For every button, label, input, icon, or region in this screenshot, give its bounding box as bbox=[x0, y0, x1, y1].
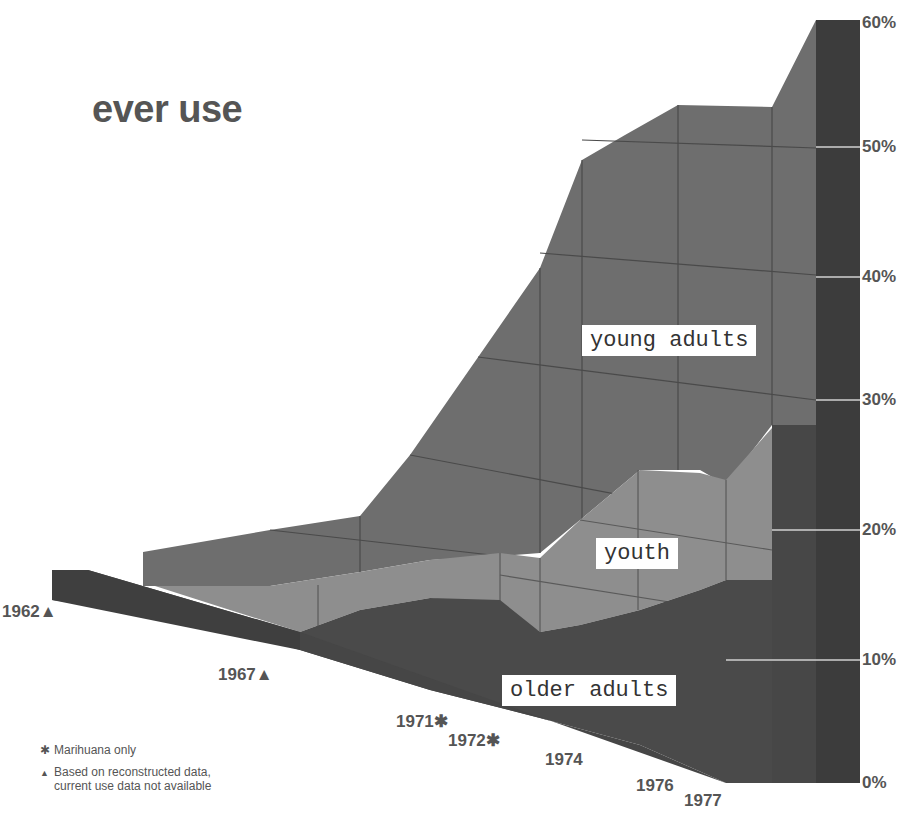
series-label-older-adults: older adults bbox=[502, 675, 676, 706]
series-label-young-adults: young adults bbox=[582, 325, 756, 356]
x-tick-1962: 1962▲ bbox=[2, 602, 57, 622]
chart-title: ever use bbox=[92, 88, 242, 131]
footnote-marihuana: ✱Marihuana only bbox=[40, 744, 136, 757]
footnote-reconstructed: ▲Based on reconstructed data, current us… bbox=[40, 766, 211, 793]
x-tick-1976: 1976 bbox=[636, 776, 674, 796]
x-tick-1967: 1967▲ bbox=[218, 665, 273, 685]
back-wall-col-1976 bbox=[772, 425, 816, 783]
y-tick-60: 60% bbox=[862, 13, 896, 33]
x-tick-1972: 1972✱ bbox=[448, 730, 500, 751]
asterisk-icon: ✱ bbox=[40, 744, 54, 757]
y-tick-50: 50% bbox=[862, 137, 896, 157]
x-tick-1977: 1977 bbox=[684, 791, 722, 811]
y-tick-20: 20% bbox=[862, 520, 896, 540]
x-tick-1971: 1971✱ bbox=[396, 711, 448, 732]
y-tick-40: 40% bbox=[862, 267, 896, 287]
y-tick-30: 30% bbox=[862, 390, 896, 410]
y-tick-0: 0% bbox=[862, 773, 887, 793]
back-wall-col-1977 bbox=[816, 20, 860, 783]
series-label-youth: youth bbox=[596, 538, 678, 569]
triangle-icon: ▲ bbox=[40, 767, 54, 780]
x-tick-1974: 1974 bbox=[545, 750, 583, 770]
y-tick-10: 10% bbox=[862, 650, 896, 670]
